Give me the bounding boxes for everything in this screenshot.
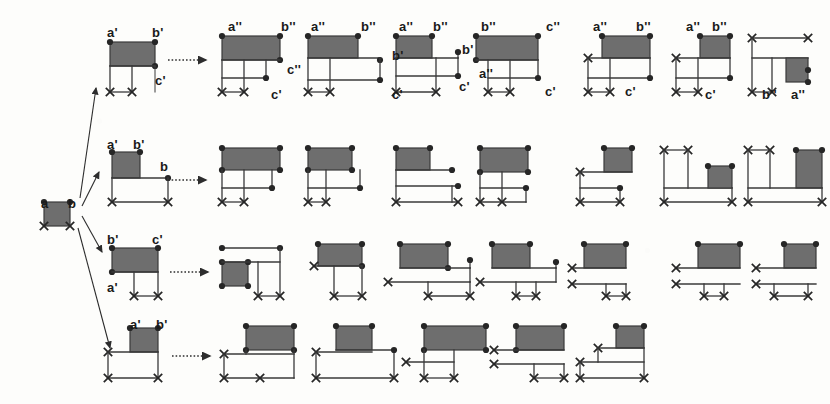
- vertex-label-r1d4-c2: c'': [546, 20, 560, 33]
- vertex-label-r4-src-b: b': [156, 318, 167, 331]
- vertex-dot: [277, 145, 283, 151]
- vertex-label-r1d7-b: b'': [762, 88, 777, 101]
- vertex-dot: [359, 241, 365, 247]
- vertex-dot: [727, 33, 733, 39]
- vertex-dot: [513, 323, 519, 329]
- filled-cell: [700, 36, 730, 58]
- filled-cell: [308, 148, 352, 170]
- filled-cell: [222, 262, 248, 286]
- vertex-dot: [477, 145, 483, 151]
- vertex-label-r1d4-a: a'': [479, 67, 493, 80]
- vertex-label-r1d3-bp: b': [462, 43, 473, 56]
- vertex-dot: [445, 241, 451, 247]
- vertex-label-r1d1-a: a'': [228, 20, 242, 33]
- vertex-dot: [705, 163, 711, 169]
- filled-cell: [786, 58, 808, 82]
- vertex-label-r3-src-c: c': [152, 233, 163, 246]
- vertex-label-r3-src-b: b': [107, 233, 118, 246]
- vertex-dot: [727, 75, 733, 81]
- vertex-label-root-b: b: [68, 197, 76, 210]
- vertex-dot: [647, 75, 653, 81]
- vertex-label-r4-src-a: a': [130, 318, 141, 331]
- vertex-dot: [291, 323, 297, 329]
- vertex-label-r1-src-b: b': [152, 26, 163, 39]
- vertex-dot: [427, 145, 433, 151]
- vertex-label-r2-src-b: b': [133, 138, 144, 151]
- filled-cell: [246, 326, 294, 350]
- vertex-dot: [243, 323, 249, 329]
- vertex-dot: [535, 75, 541, 81]
- vertex-label-r1d4-c: c': [545, 85, 556, 98]
- diagram-svg: [0, 0, 830, 404]
- vertex-dot: [305, 145, 311, 151]
- vertex-dot: [819, 147, 825, 153]
- filled-cell: [476, 36, 538, 60]
- filled-cell: [400, 244, 448, 268]
- filled-cell: [604, 148, 632, 172]
- vertex-dot: [269, 185, 275, 191]
- vertex-label-r1d6-c: c': [705, 88, 716, 101]
- filled-cell: [698, 244, 740, 268]
- vertex-label-r1d2-c: c': [392, 88, 403, 101]
- branch-arrow: [80, 88, 96, 198]
- vertex-label-r1d5-b: b'': [636, 20, 651, 33]
- vertex-dot: [455, 183, 461, 189]
- filled-cell: [396, 148, 430, 170]
- branch-arrow: [82, 216, 102, 252]
- filled-cell: [318, 244, 362, 266]
- vertex-label-r1d7-a: a'': [791, 88, 805, 101]
- source-filled-cell: [112, 248, 158, 272]
- vertex-dot: [553, 259, 559, 265]
- vertex-dot: [613, 323, 619, 329]
- vertex-label-r1-src-c: c': [155, 74, 166, 87]
- vertex-dot: [333, 323, 339, 329]
- vertex-dot: [629, 145, 635, 151]
- vertex-dot: [315, 241, 321, 247]
- filled-cell: [708, 166, 732, 188]
- vertex-dot: [219, 245, 225, 251]
- vertex-dot: [219, 283, 225, 289]
- vertex-dot: [805, 67, 811, 73]
- vertex-label-r1d3-b: b'': [433, 20, 448, 33]
- vertex-dot: [641, 323, 647, 329]
- vertex-label-r1d6-b: b'': [712, 20, 727, 33]
- vertex-dot: [489, 241, 495, 247]
- vertex-dot: [219, 33, 225, 39]
- vertex-dot: [737, 241, 743, 247]
- vertex-label-root-a: a: [41, 197, 48, 210]
- vertex-dot: [601, 145, 607, 151]
- vertex-label-r1d6-a: a'': [686, 20, 700, 33]
- vertex-dot: [561, 323, 567, 329]
- vertex-dot: [483, 323, 489, 329]
- vertex-dot: [467, 257, 473, 263]
- vertex-dot: [245, 283, 251, 289]
- filled-cell: [516, 326, 564, 350]
- vertex-dot: [525, 145, 531, 151]
- filled-cell: [602, 36, 650, 58]
- vertex-dot: [617, 185, 623, 191]
- filled-cell: [222, 148, 280, 170]
- vertex-dot: [581, 241, 587, 247]
- figure-canvas: aba'b'c'a''b''c''c'a''b''b'c'a''b''b'c'b…: [0, 0, 830, 404]
- vertex-label-r1d3-a: a'': [399, 20, 413, 33]
- vertex-dot: [535, 33, 541, 39]
- vertex-dot: [369, 323, 375, 329]
- vertex-dot: [781, 241, 787, 247]
- vertex-label-r1d1-c2: c'': [287, 63, 301, 76]
- vertex-label-r2-src-a: a': [107, 138, 118, 151]
- filled-cell: [222, 36, 280, 60]
- vertex-dot: [813, 241, 819, 247]
- filled-cell: [584, 244, 626, 268]
- filled-cell: [796, 150, 822, 188]
- vertex-label-r1d4-b: b'': [481, 20, 496, 33]
- vertex-dot: [349, 145, 355, 151]
- vertex-label-r1d2-bp: b': [392, 49, 403, 62]
- vertex-label-r1d1-b: b'': [281, 20, 296, 33]
- vertex-dot: [393, 145, 399, 151]
- vertex-label-r1d5-c: c': [625, 85, 636, 98]
- vertex-dot: [695, 241, 701, 247]
- vertex-dot: [277, 167, 283, 173]
- filled-cell: [308, 36, 358, 58]
- filled-cell: [784, 244, 816, 268]
- vertex-dot: [805, 79, 811, 85]
